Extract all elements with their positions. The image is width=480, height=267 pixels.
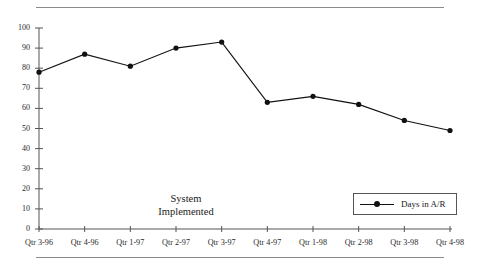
data-point-marker	[447, 128, 452, 133]
x-axis-tick-label: Qtr 4-98	[420, 239, 480, 247]
annotation-line-1: System	[138, 192, 234, 205]
y-axis-tick-label: 30	[8, 165, 30, 173]
y-axis-tick-label: 70	[8, 84, 30, 92]
data-point-marker	[310, 94, 315, 99]
chart-legend: Days in A/R	[353, 193, 457, 215]
y-axis-tick-label: 40	[8, 145, 30, 153]
annotation-line-2: Implemented	[138, 205, 234, 218]
data-point-marker	[82, 52, 87, 57]
series-line-days-in-ar	[39, 42, 450, 130]
line-chart-plot	[0, 0, 480, 267]
data-point-marker	[36, 70, 41, 75]
system-implemented-annotation: System Implemented	[138, 192, 234, 218]
data-point-marker	[173, 46, 178, 51]
legend-label-days-in-ar: Days in A/R	[401, 199, 446, 209]
y-axis-tick-label: 80	[8, 64, 30, 72]
y-axis-tick-label: 20	[8, 185, 30, 193]
data-point-marker	[128, 64, 133, 69]
data-point-marker	[356, 102, 361, 107]
data-point-marker	[265, 100, 270, 105]
data-series-group	[36, 39, 452, 133]
legend-line-marker-icon	[360, 199, 394, 209]
chart-figure: 0102030405060708090100 Qtr 3-96Qtr 4-96Q…	[0, 0, 480, 267]
y-axis-tick-label: 60	[8, 104, 30, 112]
y-axis-tick-label: 0	[8, 225, 30, 233]
y-axis-tick-label: 50	[8, 125, 30, 133]
y-axis-tick-label: 90	[8, 44, 30, 52]
y-axis-tick-label: 10	[8, 205, 30, 213]
data-point-marker	[402, 118, 407, 123]
data-point-marker	[219, 39, 224, 44]
y-axis-tick-label: 100	[8, 24, 30, 32]
